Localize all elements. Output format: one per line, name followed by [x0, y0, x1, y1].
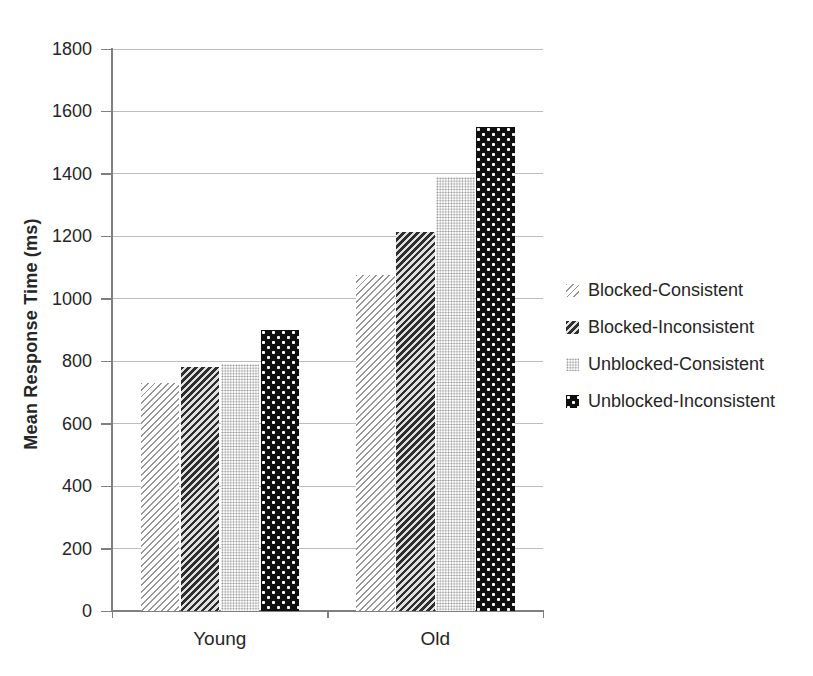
legend-label: Blocked-Consistent	[588, 280, 743, 301]
bar-old-blocked-consistent	[356, 275, 395, 611]
x-category-label-old: Old	[365, 628, 505, 650]
y-tick-label: 1600	[0, 101, 92, 121]
y-tick-label: 1200	[0, 226, 92, 246]
x-axis-tick	[327, 611, 329, 618]
legend-item: Blocked-Consistent	[566, 272, 775, 309]
gridline-1600	[112, 111, 543, 112]
legend-label: Unblocked-Consistent	[588, 354, 764, 375]
y-axis-line	[111, 48, 113, 612]
legend-label: Blocked-Inconsistent	[588, 317, 754, 338]
x-axis-tick	[112, 611, 114, 618]
bar-old-unblocked-inconsistent	[476, 127, 515, 611]
x-axis-tick	[543, 611, 545, 618]
bar-young-unblocked-inconsistent	[261, 330, 300, 611]
bar-young-unblocked-consistent	[221, 364, 260, 611]
bar-old-blocked-inconsistent	[396, 232, 435, 611]
y-tick-label: 800	[0, 351, 92, 371]
figure-canvas: Mean Response Time (ms) 0200400600800100…	[0, 0, 813, 676]
y-tick-label: 1000	[0, 289, 92, 309]
bar-young-blocked-inconsistent	[181, 367, 220, 611]
gridline-1800	[112, 49, 543, 50]
x-category-label-young: Young	[150, 628, 290, 650]
y-tick-label: 0	[0, 601, 92, 621]
legend-item: Blocked-Inconsistent	[566, 309, 775, 346]
legend-marker-black-white-dots	[566, 395, 579, 408]
y-tick-label: 600	[0, 414, 92, 434]
y-tick-label: 1400	[0, 164, 92, 184]
bar-young-blocked-consistent	[141, 383, 180, 611]
bar-old-unblocked-consistent	[436, 177, 475, 611]
legend-item: Unblocked-Consistent	[566, 346, 775, 383]
legend-marker-light-diagonal-hatch	[566, 284, 579, 297]
legend-marker-gray-dot-grid	[566, 358, 579, 371]
y-tick-label: 1800	[0, 39, 92, 59]
y-tick-label: 400	[0, 476, 92, 496]
y-tick-label: 200	[0, 539, 92, 559]
legend-item: Unblocked-Inconsistent	[566, 383, 775, 420]
legend-label: Unblocked-Inconsistent	[588, 391, 775, 412]
legend-marker-dark-diagonal-hatch	[566, 321, 579, 334]
legend: Blocked-ConsistentBlocked-InconsistentUn…	[566, 272, 775, 420]
